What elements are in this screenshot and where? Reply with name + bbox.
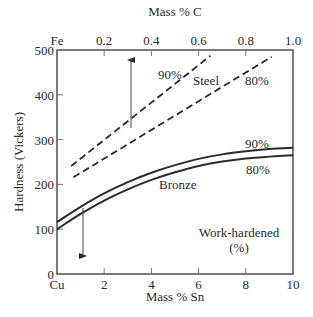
steel-label: Steel xyxy=(193,73,219,88)
legend-percent: (%) xyxy=(229,240,249,255)
bronze-90-label: 90% xyxy=(245,136,269,151)
x-bottom-tick-label: 2 xyxy=(101,277,108,292)
y-tick-label: 100 xyxy=(35,222,55,237)
x-top-tick-label: 0.6 xyxy=(190,33,207,48)
y-axis-title: Hardness (Vickers) xyxy=(11,112,26,212)
bottom-axis-title: Mass % Sn xyxy=(146,289,205,304)
x-bottom-tick-label: 10 xyxy=(287,277,300,292)
x-top-tick-label: 0.8 xyxy=(238,33,254,48)
x-bottom-tick-label: 8 xyxy=(243,277,250,292)
steel-90-label: 90% xyxy=(158,67,182,82)
y-tick-label: 200 xyxy=(35,177,55,192)
steel-90-work-hardened-line xyxy=(71,56,210,166)
x-top-tick-label: 1.0 xyxy=(285,33,301,48)
top-axis-title: Mass % C xyxy=(148,4,201,19)
x-top-tick-label: 0.2 xyxy=(96,33,112,48)
y-tick-label: 300 xyxy=(35,133,55,148)
x-top-tick-label: 0.4 xyxy=(143,33,160,48)
hardness-chart: Cu246810Fe0.20.40.60.81.0010020030040050… xyxy=(0,0,313,317)
legend-work-hardened: Work-hardened xyxy=(199,225,280,240)
bronze-label: Bronze xyxy=(159,177,197,192)
steel-80-label: 80% xyxy=(245,73,269,88)
y-tick-label: 400 xyxy=(35,88,55,103)
bronze-80-label: 80% xyxy=(246,162,270,177)
y-tick-label: 500 xyxy=(35,43,55,58)
y-tick-label: 0 xyxy=(48,267,55,282)
